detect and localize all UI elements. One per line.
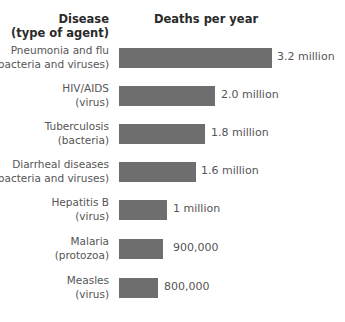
category-header: Disease (type of agent) xyxy=(11,12,109,40)
bar xyxy=(119,278,158,298)
value-label: 800,000 xyxy=(164,280,210,294)
disease-label: HIV/AIDS(virus) xyxy=(62,82,109,109)
value-label: 1 million xyxy=(173,202,220,216)
disease-name: Malaria xyxy=(55,235,109,249)
disease-name: Measles xyxy=(67,274,109,288)
value-header: Deaths per year xyxy=(154,12,258,26)
disease-name: HIV/AIDS xyxy=(62,82,109,96)
disease-agent: (virus) xyxy=(67,288,109,302)
disease-label: Hepatitis B(virus) xyxy=(51,196,109,223)
value-label: 1.8 million xyxy=(211,126,269,140)
disease-label: Diarrheal diseases(bacteria and viruses) xyxy=(0,158,109,185)
disease-name: Pneumonia and flu xyxy=(0,44,109,58)
value-label: 1.6 million xyxy=(201,164,259,178)
value-label: 900,000 xyxy=(173,241,219,255)
disease-agent: (bacteria and viruses) xyxy=(0,58,109,72)
disease-agent: (bacteria) xyxy=(45,134,109,148)
disease-label: Pneumonia and flu(bacteria and viruses) xyxy=(0,44,109,71)
bar xyxy=(119,239,163,259)
disease-agent: (protozoa) xyxy=(55,249,109,263)
value-label: 3.2 million xyxy=(277,50,335,64)
bar-row: Pneumonia and flu(bacteria and viruses)3… xyxy=(0,44,345,72)
bar xyxy=(119,48,272,68)
bar xyxy=(119,200,167,220)
disease-name: Hepatitis B xyxy=(51,196,109,210)
category-header-line1: Disease xyxy=(11,12,109,26)
disease-label: Malaria(protozoa) xyxy=(55,235,109,262)
disease-label: Measles(virus) xyxy=(67,274,109,301)
bar xyxy=(119,124,205,144)
disease-agent: (virus) xyxy=(62,96,109,110)
bar-row: Measles(virus)800,000 xyxy=(0,274,345,302)
disease-agent: (bacteria and viruses) xyxy=(0,172,109,186)
bar-row: Tuberculosis(bacteria)1.8 million xyxy=(0,120,345,148)
bar xyxy=(119,162,196,182)
bar-row: Hepatitis B(virus)1 million xyxy=(0,196,345,224)
disease-name: Tuberculosis xyxy=(45,120,109,134)
disease-label: Tuberculosis(bacteria) xyxy=(45,120,109,147)
disease-name: Diarrheal diseases xyxy=(0,158,109,172)
value-label: 2.0 million xyxy=(221,88,279,102)
bar-row: Diarrheal diseases(bacteria and viruses)… xyxy=(0,158,345,186)
bar-row: Malaria(protozoa)900,000 xyxy=(0,235,345,263)
category-header-line2: (type of agent) xyxy=(11,26,109,40)
disease-agent: (virus) xyxy=(51,210,109,224)
bar xyxy=(119,86,215,106)
bar-row: HIV/AIDS(virus)2.0 million xyxy=(0,82,345,110)
